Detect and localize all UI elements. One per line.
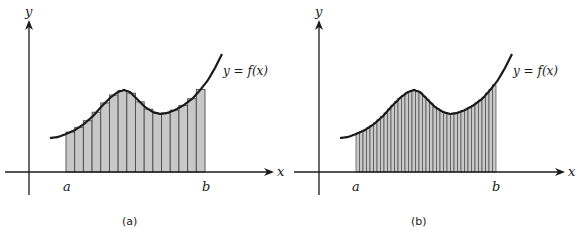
riemann-rectangle [170,110,179,172]
riemann-rectangle [402,95,406,172]
riemann-rectangle [153,113,162,172]
interval-start-label: a [63,179,71,194]
riemann-rectangle [391,105,395,172]
x-axis-label: x [568,164,576,179]
x-axis-label: x [277,164,285,179]
riemann-rectangle [486,93,490,172]
riemann-rectangle [92,112,101,172]
function-label: y = f(x) [222,64,268,78]
riemann-rectangle [426,100,430,172]
riemann-rectangle [101,103,110,172]
riemann-rectangle [451,114,455,172]
riemann-rectangle [437,109,441,172]
riemann-rectangle [179,105,188,172]
riemann-rectangle [196,89,205,172]
riemann-rectangle [419,93,423,172]
riemann-rectangle [377,120,381,172]
riemann-rectangle [461,111,465,172]
riemann-rectangle [416,91,420,172]
riemann-rectangle [381,117,385,172]
riemann-rectangle [447,114,451,172]
riemann-rectangle [405,93,409,172]
function-label: y = f(x) [512,64,558,78]
riemann-rectangle [75,127,84,172]
riemann-rectangle [188,99,197,172]
riemann-rectangle [136,102,145,172]
riemann-rectangle [360,132,364,172]
riemann-rectangle [367,128,371,172]
riemann-rectangle [468,107,472,172]
riemann-rectangle [479,100,483,172]
riemann-rectangle [430,103,434,172]
riemann-rectangle [388,109,392,172]
riemann-rectangle [66,132,75,172]
riemann-rectangle [370,126,374,173]
riemann-rectangle [127,93,136,172]
riemann-rectangle [409,91,413,172]
y-axis-label: y [314,4,323,19]
riemann-rectangle [384,113,388,172]
riemann-rectangle [398,98,402,172]
panel-b: y x a b y = f(x) (b) [294,4,576,228]
riemann-rectangle [395,102,399,172]
riemann-rectangle [454,113,458,172]
riemann-rectangle [493,85,497,172]
riemann-rectangle [162,113,171,172]
riemann-rectangle [144,109,153,172]
riemann-rectangle [489,89,493,172]
riemann-rectangle [475,103,479,172]
riemann-rectangles-coarse [66,89,205,172]
riemann-rectangle [465,109,469,172]
y-axis-label: y [24,4,33,19]
panel-caption: (a) [122,215,137,228]
riemann-rectangle [109,95,118,172]
riemann-sum-figure: y x a b y = f(x) (a) y x a b y = f(x) (b… [0,0,577,237]
interval-end-label: b [202,179,210,194]
riemann-rectangle [118,91,127,172]
riemann-rectangle [83,121,92,172]
riemann-rectangle [458,112,462,172]
riemann-rectangle [363,130,367,172]
riemann-rectangle [444,113,448,172]
panel-caption: (b) [411,215,427,228]
panel-a: y x a b y = f(x) (a) [5,4,285,228]
riemann-rectangle [482,97,486,172]
riemann-rectangle [374,123,378,172]
riemann-rectangle [433,107,437,172]
riemann-rectangle [440,111,444,172]
riemann-rectangle [472,105,476,172]
riemann-rectangle [423,96,427,172]
interval-end-label: b [492,179,500,194]
interval-start-label: a [352,179,360,194]
riemann-rectangle [412,90,416,172]
riemann-rectangle [356,133,360,172]
